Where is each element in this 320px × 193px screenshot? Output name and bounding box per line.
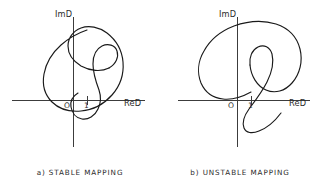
origin-tick-label: O bbox=[228, 101, 234, 110]
imaginary-axis-label: ImD bbox=[219, 9, 236, 19]
unit-tick-label: 1 bbox=[248, 101, 253, 110]
caption-stable-mapping: a) STABLE MAPPING bbox=[0, 168, 160, 177]
imaginary-axis-label: ImD bbox=[55, 9, 72, 19]
figure-container: ImD ReD O 1 a) STABLE MAPPING ImD ReD O … bbox=[0, 0, 320, 193]
real-axis-label: ReD bbox=[289, 98, 306, 108]
real-axis-label: ReD bbox=[124, 98, 141, 108]
unit-tick-label: 1 bbox=[84, 101, 89, 110]
nyquist-locus-inner-loop bbox=[243, 46, 281, 133]
panel-stable-mapping: ImD ReD O 1 a) STABLE MAPPING bbox=[0, 0, 160, 193]
nyquist-locus-outer bbox=[43, 27, 123, 112]
plot-unstable-mapping: ImD ReD O 1 bbox=[160, 0, 320, 160]
caption-unstable-mapping: b) UNSTABLE MAPPING bbox=[160, 168, 320, 177]
plot-stable-mapping: ImD ReD O 1 bbox=[0, 0, 160, 160]
panel-unstable-mapping: ImD ReD O 1 b) UNSTABLE MAPPING bbox=[160, 0, 320, 193]
origin-tick-label: O bbox=[64, 101, 70, 110]
